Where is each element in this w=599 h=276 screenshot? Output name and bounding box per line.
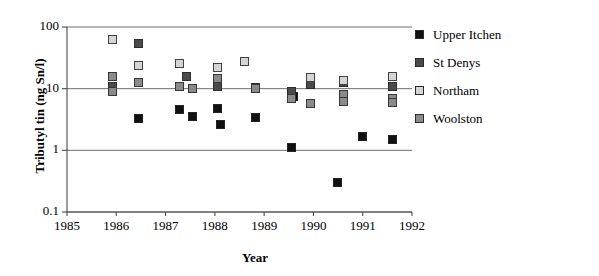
data-point-marker xyxy=(333,178,342,187)
x-tick-label: 1990 xyxy=(288,218,338,234)
axis-ticks xyxy=(62,27,412,216)
x-tick-label: 1992 xyxy=(387,218,437,234)
data-point-marker xyxy=(339,76,348,85)
data-point-marker xyxy=(175,59,184,68)
data-point-marker xyxy=(287,143,296,152)
data-point-marker xyxy=(108,72,117,81)
data-point-marker xyxy=(182,72,191,81)
x-tick-label: 1985 xyxy=(42,218,92,234)
data-point-marker xyxy=(213,63,222,72)
legend-label: Woolston xyxy=(433,111,483,127)
legend-label: St Denys xyxy=(433,55,480,71)
data-point-marker xyxy=(251,84,260,93)
data-point-marker xyxy=(175,82,184,91)
data-point-marker xyxy=(188,84,197,93)
data-point-marker xyxy=(306,73,315,82)
legend-item: Woolston xyxy=(415,106,590,131)
legend-swatch-upper-itchen xyxy=(415,30,424,39)
data-point-marker xyxy=(134,78,143,87)
x-tick-label: 1986 xyxy=(91,218,141,234)
x-axis-title: Year xyxy=(195,250,315,266)
data-point-marker xyxy=(287,94,296,103)
x-tick-label: 1988 xyxy=(190,218,240,234)
data-point-marker xyxy=(213,74,222,83)
data-point-marker xyxy=(134,114,143,123)
data-point-marker xyxy=(213,104,222,113)
legend-label: Upper Itchen xyxy=(433,27,501,43)
data-point-marker xyxy=(388,72,397,81)
data-point-marker xyxy=(251,113,260,122)
legend-swatch-northam xyxy=(415,86,424,95)
x-tick-label: 1991 xyxy=(338,218,388,234)
data-point-marker xyxy=(216,120,225,129)
legend-item: Northam xyxy=(415,78,590,103)
legend-swatch-st-denys xyxy=(415,58,424,67)
data-point-marker xyxy=(388,135,397,144)
data-point-marker xyxy=(388,82,397,91)
chart-legend: Upper ItchenSt DenysNorthamWoolston xyxy=(415,22,590,134)
data-point-marker xyxy=(388,98,397,107)
data-point-marker xyxy=(134,39,143,48)
legend-item: St Denys xyxy=(415,50,590,75)
data-point-marker xyxy=(175,105,184,114)
scatter-chart: 0.1110100 198519861987198819891990199119… xyxy=(0,0,599,276)
x-tick-label: 1989 xyxy=(239,218,289,234)
y-axis-title: Tributyl tin (ng Sn/l) xyxy=(32,16,48,216)
legend-item: Upper Itchen xyxy=(415,22,590,47)
data-point-marker xyxy=(134,61,143,70)
data-point-marker xyxy=(108,87,117,96)
axis-lines xyxy=(67,27,412,212)
data-point-marker xyxy=(358,132,367,141)
gridlines xyxy=(67,27,412,212)
data-point-marker xyxy=(188,112,197,121)
x-tick-label: 1987 xyxy=(141,218,191,234)
legend-label: Northam xyxy=(433,83,479,99)
data-point-marker xyxy=(240,57,249,66)
data-point-marker xyxy=(339,97,348,106)
data-point-marker xyxy=(108,35,117,44)
data-point-marker xyxy=(306,99,315,108)
legend-swatch-woolston xyxy=(415,114,424,123)
